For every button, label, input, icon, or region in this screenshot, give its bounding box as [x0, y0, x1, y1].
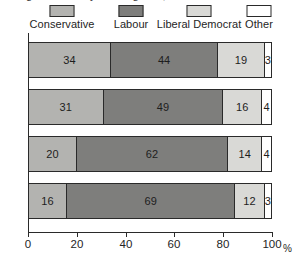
bar-segment-other: 3 [264, 42, 272, 78]
x-axis-tick-label: 60 [168, 238, 181, 250]
bar-track: 3444193 [28, 42, 272, 78]
bar-row: C22062144 [28, 136, 272, 172]
bar-segment-labour: 62 [76, 136, 228, 172]
bar-segment-labour: 44 [110, 42, 218, 78]
bar-segment-value: 16 [41, 196, 53, 207]
bar-segment-conservative: 31 [28, 89, 104, 125]
bar-segment-value: 19 [235, 55, 247, 66]
x-axis-tick-label: 100 [262, 238, 281, 250]
x-axis-tick [223, 233, 224, 237]
bar-segment-value: 12 [243, 196, 255, 207]
bar-segment-value: 16 [236, 102, 248, 113]
y-axis-top-cap [28, 33, 29, 37]
bar-track: 2062144 [28, 136, 272, 172]
bar-segment-value: 3 [265, 196, 271, 207]
x-axis-tick-label: 40 [120, 238, 133, 250]
bar-segment-liberal-democrat: 16 [222, 89, 262, 125]
bar-segment-value: 14 [238, 149, 250, 160]
stacked-bar-chart: Voting intention by social grade, Great … [0, 0, 306, 258]
bar-segment-labour: 69 [66, 183, 235, 219]
bar-row: C13149164 [28, 89, 272, 125]
bar-segment-value: 62 [146, 149, 158, 160]
bar-segment-value: 31 [60, 102, 72, 113]
chart-title-clipped: Voting intention by social grade, Great … [0, 0, 306, 3]
bar-row: DE1669123 [28, 183, 272, 219]
bar-segment-other: 3 [264, 183, 272, 219]
bar-segment-other: 4 [261, 89, 272, 125]
x-axis-tick [28, 233, 29, 237]
bar-segment-value: 4 [263, 102, 269, 113]
bar-segment-liberal-democrat: 14 [227, 136, 262, 172]
legend-item-other: Other [199, 5, 306, 33]
bar-segment-value: 4 [263, 149, 269, 160]
bar-segment-liberal-democrat: 19 [217, 42, 264, 78]
x-axis-tick [126, 233, 127, 237]
bar-segment-value: 49 [157, 102, 169, 113]
x-axis-tick [174, 233, 175, 237]
legend-label: Other [245, 18, 273, 30]
chart-legend: ConservativeLabourLiberal DemocratOther [0, 5, 306, 33]
bar-segment-other: 4 [261, 136, 272, 172]
bar-segment-value: 69 [144, 196, 156, 207]
bar-segment-liberal-democrat: 12 [234, 183, 264, 219]
bar-segment-value: 34 [63, 55, 75, 66]
bar-segment-conservative: 20 [28, 136, 77, 172]
x-axis-tick-label: 0 [25, 238, 31, 250]
bar-segment-value: 44 [158, 55, 170, 66]
x-axis-tick-label: 20 [71, 238, 84, 250]
bar-track: 1669123 [28, 183, 272, 219]
x-axis-tick [77, 233, 78, 237]
bar-segment-conservative: 34 [28, 42, 111, 78]
x-axis-tick-label: 80 [217, 238, 230, 250]
bar-segment-conservative: 16 [28, 183, 67, 219]
bar-track: 3149164 [28, 89, 272, 125]
bar-row: AB3444193 [28, 42, 272, 78]
legend-swatch-other [247, 5, 272, 17]
x-axis-line [28, 232, 273, 233]
x-axis-unit-label: % [283, 243, 292, 254]
bar-segment-value: 3 [265, 55, 271, 66]
bar-segment-labour: 49 [103, 89, 224, 125]
bar-segment-value: 20 [46, 149, 58, 160]
x-axis-tick [272, 233, 273, 237]
